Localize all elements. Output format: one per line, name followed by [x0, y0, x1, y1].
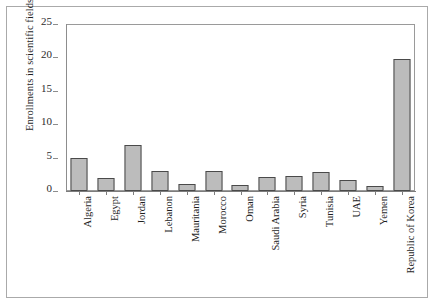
x-tick-label: Mauritania: [191, 196, 202, 242]
x-axis-labels: AlgeriaEgyptJordanLebanonMauritaniaMoroc…: [0, 0, 434, 308]
chart-figure: Enrollments in scientific fields (%) 051…: [0, 0, 434, 308]
x-tick-label: Yemen: [379, 196, 390, 225]
x-tick-label: Oman: [245, 196, 256, 222]
x-tick-label: Republic of Korea: [406, 196, 417, 274]
x-tick-label: Syria: [298, 196, 309, 218]
x-tick-label: Morocco: [218, 196, 229, 234]
x-tick-label: Algeria: [83, 196, 94, 228]
x-tick-label: Jordan: [137, 196, 148, 224]
x-tick-label: UAE: [352, 196, 363, 218]
x-tick-label: Tunisia: [325, 196, 336, 227]
x-tick-label: Egypt: [110, 196, 121, 221]
x-tick-label: Lebanon: [164, 196, 175, 233]
x-tick-label: Saudi Arabia: [271, 196, 282, 251]
